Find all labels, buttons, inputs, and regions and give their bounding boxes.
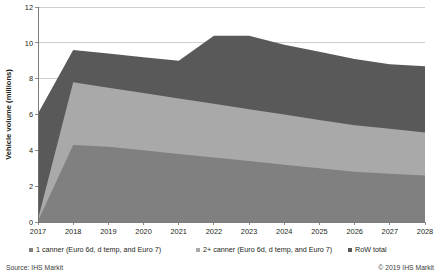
x-axis-tick-label: 2025 [311, 227, 327, 236]
chart-legend: 1 canner (Euro 6d, d temp, and Euro 7) 2… [0, 244, 440, 260]
y-axis-tick-label: 12 [25, 3, 33, 12]
legend-label: RoW total [355, 246, 387, 254]
legend-item-row-total[interactable]: RoW total [348, 246, 387, 254]
legend-label: 1 canner (Euro 6d, d temp, and Euro 7) [36, 246, 161, 254]
y-axis-tick-label: 10 [25, 39, 33, 48]
stacked-area-chart: 0246810122017201820192020202120222023202… [0, 0, 440, 240]
chart-footer: Source: IHS Markit © 2019 IHS Markit [0, 264, 440, 279]
source-note: Source: IHS Markit [6, 264, 63, 271]
y-axis-title: Vehicle volume (millions) [4, 69, 13, 160]
x-axis-tick-label: 2028 [417, 227, 433, 236]
x-axis-tick-label: 2019 [100, 227, 116, 236]
x-axis-tick-label: 2021 [171, 227, 187, 236]
legend-item-2plus-canner[interactable]: 2+ canner (Euro 6d, d temp, and Euro 7) [196, 246, 332, 254]
x-axis-tick-label: 2022 [206, 227, 222, 236]
chart-figure: 0246810122017201820192020202120222023202… [0, 0, 440, 279]
y-axis-tick-label: 0 [29, 218, 33, 227]
x-axis-tick-label: 2023 [241, 227, 257, 236]
y-axis-tick-label: 4 [29, 146, 33, 155]
x-axis-tick-label: 2020 [135, 227, 151, 236]
legend-item-1-canner[interactable]: 1 canner (Euro 6d, d temp, and Euro 7) [29, 246, 161, 254]
x-axis-tick-label: 2026 [346, 227, 362, 236]
square-marker-icon [29, 248, 33, 252]
square-marker-icon [348, 248, 352, 252]
x-axis-tick-label: 2024 [276, 227, 292, 236]
x-axis-tick-label: 2017 [30, 227, 46, 236]
copyright-note: © 2019 IHS Markit [378, 264, 434, 271]
square-marker-icon [196, 248, 200, 252]
legend-label: 2+ canner (Euro 6d, d temp, and Euro 7) [203, 246, 332, 254]
y-axis-tick-label: 6 [29, 110, 33, 119]
y-axis-tick-label: 2 [29, 182, 33, 191]
y-axis-tick-label: 8 [29, 74, 33, 83]
chart-plot-area: 0246810122017201820192020202120222023202… [0, 0, 440, 240]
x-axis-tick-label: 2018 [65, 227, 81, 236]
x-axis-tick-label: 2027 [382, 227, 398, 236]
